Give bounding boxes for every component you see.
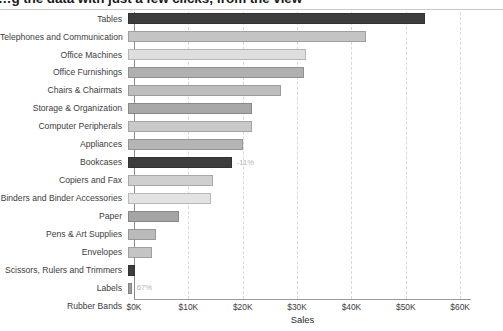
category-label: Binders and Binder Accessories [0, 194, 128, 203]
bar-row[interactable]: Binders and Binder Accessories [0, 189, 503, 207]
bar[interactable] [128, 121, 252, 132]
bar[interactable] [128, 193, 211, 204]
category-label: Pens & Art Supplies [0, 230, 128, 239]
category-label: Chairs & Chairmats [0, 86, 128, 95]
bar-cell [128, 118, 503, 136]
bar-cell [128, 261, 503, 279]
bar-row[interactable]: Paper [0, 207, 503, 225]
x-axis-line [134, 299, 471, 300]
bar-chart: TablesTelephones and CommunicationOffice… [0, 10, 503, 331]
bar[interactable] [128, 31, 366, 42]
bar[interactable] [128, 85, 281, 96]
bar-row[interactable]: Office Furnishings [0, 64, 503, 82]
x-tick-label: $30K [287, 303, 307, 311]
category-label: Storage & Organization [0, 104, 128, 113]
x-axis-title: Sales [134, 315, 471, 324]
category-label: Tables [0, 15, 128, 24]
bar[interactable] [128, 229, 156, 240]
category-label: Office Machines [0, 51, 128, 60]
bar-row[interactable]: Computer Peripherals [0, 118, 503, 136]
bar[interactable] [128, 103, 252, 114]
bar-cell [128, 207, 503, 225]
bar-cell: -11% [128, 154, 503, 172]
bar-cell [128, 100, 503, 118]
bar[interactable] [128, 247, 152, 258]
bar-row[interactable]: Pens & Art Supplies [0, 225, 503, 243]
bar-row[interactable]: Bookcases-11% [0, 154, 503, 172]
bar[interactable] [128, 283, 132, 294]
bar-row[interactable]: Scissors, Rulers and Trimmers [0, 261, 503, 279]
category-label: Labels [0, 284, 128, 293]
x-tick-label: $40K [342, 303, 362, 311]
bar[interactable] [128, 67, 304, 78]
bar-cell [128, 225, 503, 243]
category-label: Bookcases [0, 158, 128, 167]
bar-cell [128, 243, 503, 261]
category-label: Scissors, Rulers and Trimmers [0, 266, 128, 275]
bar-cell [128, 28, 503, 46]
category-label: Envelopes [0, 248, 128, 257]
x-tick-label: $60K [450, 303, 470, 311]
bar[interactable] [128, 157, 232, 168]
bar[interactable] [128, 211, 179, 222]
bar-cell [128, 64, 503, 82]
bar-row[interactable]: Copiers and Fax [0, 171, 503, 189]
x-tick-label: $0K [127, 303, 142, 311]
bar-row[interactable]: Office Machines [0, 46, 503, 64]
x-tick-label: $10K [179, 303, 199, 311]
category-label: Telephones and Communication [0, 33, 128, 42]
bar-row[interactable]: Envelopes [0, 243, 503, 261]
x-axis-ticks: $0K$10K$20K$30K$40K$50K$60K [0, 301, 503, 315]
bar-row[interactable]: Appliances [0, 136, 503, 154]
bar-value-label: -11% [237, 159, 254, 167]
bar[interactable] [128, 265, 135, 276]
bar-row[interactable]: Storage & Organization [0, 100, 503, 118]
category-label: Office Furnishings [0, 68, 128, 77]
bar-row[interactable]: Chairs & Chairmats [0, 82, 503, 100]
bar[interactable] [128, 175, 213, 186]
bar-row[interactable]: Tables [0, 10, 503, 28]
category-label: Appliances [0, 140, 128, 149]
bar-cell [128, 82, 503, 100]
bar-cell [128, 189, 503, 207]
bar-row[interactable]: Telephones and Communication [0, 28, 503, 46]
bar-cell [128, 136, 503, 154]
bar[interactable] [128, 49, 306, 60]
bar-cell [128, 171, 503, 189]
headline-text: …g the data with just a few clicks, from… [0, 0, 302, 6]
bar-value-label: 67% [137, 284, 152, 292]
bar[interactable] [128, 13, 425, 24]
category-label: Paper [0, 212, 128, 221]
category-label: Computer Peripherals [0, 122, 128, 131]
bar-rows: TablesTelephones and CommunicationOffice… [0, 10, 503, 297]
bar-cell: 67% [128, 279, 503, 297]
bar-cell [128, 10, 503, 28]
bar-row[interactable]: Labels67% [0, 279, 503, 297]
headline-strip: …g the data with just a few clicks, from… [0, 0, 503, 9]
x-tick-label: $20K [233, 303, 253, 311]
x-tick-label: $50K [396, 303, 416, 311]
bar[interactable] [128, 139, 243, 150]
category-label: Copiers and Fax [0, 176, 128, 185]
bar-cell [128, 46, 503, 64]
